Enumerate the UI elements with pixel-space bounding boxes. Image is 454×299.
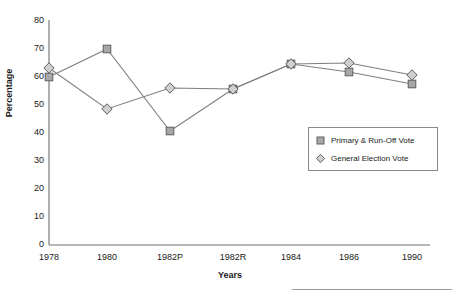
legend-label: Primary & Run-Off Vote <box>331 136 414 145</box>
line-chart: Percentage 80 70 60 50 40 30 20 10 0 197… <box>0 0 454 299</box>
legend-item-primary-runoff: Primary & Run-Off Vote <box>315 133 414 147</box>
diamond-marker-icon <box>315 153 326 164</box>
series-markers-general-election <box>44 58 417 114</box>
page-divider <box>292 289 452 290</box>
legend-label: General Election Vote <box>331 154 408 163</box>
chart-legend: Primary & Run-Off Vote General Election … <box>308 127 438 171</box>
x-axis-title: Years <box>170 270 290 280</box>
square-marker-icon <box>315 135 326 146</box>
legend-item-general-election: General Election Vote <box>315 151 408 165</box>
